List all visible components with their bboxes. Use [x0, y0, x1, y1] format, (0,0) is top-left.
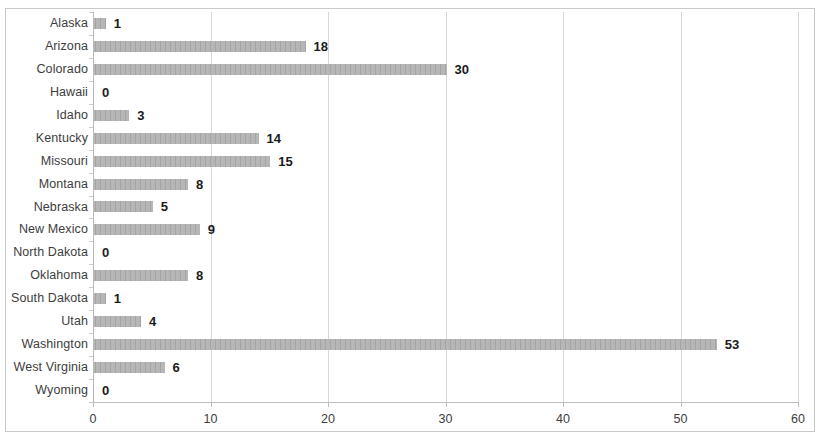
y-tick-mark [89, 58, 93, 59]
category-label-wyoming: Wyoming [0, 379, 88, 402]
bar-west-virginia [94, 362, 165, 373]
bar-value-nebraska: 5 [161, 201, 168, 212]
category-label-idaho: Idaho [0, 104, 88, 127]
y-tick-mark [89, 379, 93, 380]
y-tick-mark [89, 150, 93, 151]
bar-value-utah: 4 [149, 316, 156, 327]
x-tick-50 [681, 402, 682, 407]
category-label-washington: Washington [0, 333, 88, 356]
chart-row: Kentucky14 [0, 127, 821, 150]
y-tick-mark [89, 287, 93, 288]
chart-row: Wyoming0 [0, 379, 821, 402]
bar-kentucky [94, 133, 259, 144]
x-tick-label-60: 60 [778, 412, 818, 426]
chart-row: Colorado30 [0, 58, 821, 81]
chart-row: Oklahoma8 [0, 264, 821, 287]
bar-new-mexico [94, 224, 200, 235]
x-tick-label-20: 20 [308, 412, 348, 426]
bar-alaska [94, 18, 106, 29]
x-tick-0 [93, 402, 94, 407]
bar-missouri [94, 156, 270, 167]
bar-montana [94, 179, 188, 190]
chart-row: Nebraska5 [0, 196, 821, 219]
category-label-utah: Utah [0, 310, 88, 333]
category-label-arizona: Arizona [0, 35, 88, 58]
x-tick-label-30: 30 [426, 412, 466, 426]
x-tick-40 [563, 402, 564, 407]
chart-row: Hawaii0 [0, 81, 821, 104]
chart-row: Washington53 [0, 333, 821, 356]
chart-row: South Dakota1 [0, 287, 821, 310]
bar-value-colorado: 30 [455, 64, 469, 75]
x-tick-10 [211, 402, 212, 407]
category-label-missouri: Missouri [0, 150, 88, 173]
y-tick-mark [89, 264, 93, 265]
category-label-kentucky: Kentucky [0, 127, 88, 150]
chart-row: Alaska1 [0, 12, 821, 35]
bar-value-arizona: 18 [314, 41, 328, 52]
bar-nebraska [94, 201, 153, 212]
bar-value-montana: 8 [196, 179, 203, 190]
y-tick-mark [89, 241, 93, 242]
bar-value-wyoming: 0 [102, 385, 109, 396]
y-tick-mark [89, 402, 93, 403]
category-label-colorado: Colorado [0, 58, 88, 81]
bar-value-south-dakota: 1 [114, 293, 121, 304]
bar-oklahoma [94, 270, 188, 281]
bar-colorado [94, 64, 447, 75]
category-label-nebraska: Nebraska [0, 196, 88, 219]
chart-row: New Mexico9 [0, 218, 821, 241]
y-tick-mark [89, 81, 93, 82]
bar-value-west-virginia: 6 [173, 362, 180, 373]
y-tick-mark [89, 218, 93, 219]
bar-value-idaho: 3 [137, 110, 144, 121]
y-tick-mark [89, 12, 93, 13]
y-tick-mark [89, 127, 93, 128]
chart-row: Missouri15 [0, 150, 821, 173]
bar-value-kentucky: 14 [267, 133, 281, 144]
bar-washington [94, 339, 717, 350]
x-tick-30 [446, 402, 447, 407]
category-label-oklahoma: Oklahoma [0, 264, 88, 287]
category-label-montana: Montana [0, 173, 88, 196]
y-tick-mark [89, 35, 93, 36]
chart-row: West Virginia6 [0, 356, 821, 379]
x-tick-label-0: 0 [73, 412, 113, 426]
x-tick-label-50: 50 [661, 412, 701, 426]
chart-row: Idaho3 [0, 104, 821, 127]
x-tick-label-40: 40 [543, 412, 583, 426]
y-tick-mark [89, 196, 93, 197]
chart-row: Arizona18 [0, 35, 821, 58]
y-tick-mark [89, 356, 93, 357]
bar-chart: Alaska1Arizona18Colorado30Hawaii0Idaho3K… [0, 0, 821, 441]
bar-arizona [94, 41, 306, 52]
y-tick-mark [89, 104, 93, 105]
bar-value-north-dakota: 0 [102, 247, 109, 258]
category-label-north-dakota: North Dakota [0, 241, 88, 264]
bar-value-new-mexico: 9 [208, 224, 215, 235]
chart-row: Utah4 [0, 310, 821, 333]
bar-value-missouri: 15 [278, 156, 292, 167]
bar-value-oklahoma: 8 [196, 270, 203, 281]
chart-row: North Dakota0 [0, 241, 821, 264]
category-label-south-dakota: South Dakota [0, 287, 88, 310]
bar-value-washington: 53 [725, 339, 739, 350]
x-tick-60 [798, 402, 799, 407]
bar-south-dakota [94, 293, 106, 304]
category-label-new-mexico: New Mexico [0, 218, 88, 241]
chart-row: Montana8 [0, 173, 821, 196]
bar-utah [94, 316, 141, 327]
bar-value-hawaii: 0 [102, 87, 109, 98]
y-tick-mark [89, 310, 93, 311]
category-label-alaska: Alaska [0, 12, 88, 35]
bar-idaho [94, 110, 129, 121]
bar-value-alaska: 1 [114, 18, 121, 29]
x-tick-label-10: 10 [191, 412, 231, 426]
y-tick-mark [89, 173, 93, 174]
y-tick-mark [89, 333, 93, 334]
x-tick-20 [328, 402, 329, 407]
category-label-west-virginia: West Virginia [0, 356, 88, 379]
category-label-hawaii: Hawaii [0, 81, 88, 104]
